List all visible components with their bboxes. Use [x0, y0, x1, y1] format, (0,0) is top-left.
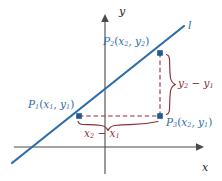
- x-axis-label: x: [202, 162, 208, 173]
- p1-comma: ,: [53, 98, 56, 110]
- p1-close-paren: ): [70, 98, 74, 110]
- point-marker-p2: [157, 50, 163, 56]
- run-lead-subscript: 2: [90, 132, 94, 140]
- point-marker-p3: [157, 113, 163, 119]
- point-marker-p1: [76, 113, 82, 119]
- point-label-p1: P1(x1, y1): [28, 99, 74, 111]
- line-l-label: l: [188, 20, 192, 31]
- run-trail-subscript: 1: [115, 132, 119, 140]
- point-markers: [76, 50, 163, 119]
- y-axis-arrowhead: [101, 14, 109, 22]
- p3-close-paren: ): [208, 116, 212, 128]
- dashed-construction-lines: [79, 53, 160, 116]
- point-label-p2: P2(x2, y2): [103, 36, 149, 48]
- p3-comma: ,: [191, 116, 194, 128]
- slope-diagram-figure: P2(x2, y2) P1(x1, y1) P3(x2, y1) y2 − y1…: [0, 0, 222, 181]
- point-label-p3: P3(x2, y1): [166, 117, 212, 129]
- rise-brace: [167, 55, 176, 115]
- rise-lead-subscript: 2: [184, 82, 188, 90]
- line-l: [12, 26, 184, 163]
- rise-trail-subscript: 1: [210, 82, 214, 90]
- rise-difference-label: y2 − y1: [178, 78, 214, 90]
- p2-close-paren: ): [145, 35, 149, 47]
- rise-minus-sign: −: [191, 77, 200, 89]
- p2-comma: ,: [128, 35, 131, 47]
- run-minus-sign: −: [97, 127, 106, 139]
- x-axis-arrowhead: [196, 143, 204, 151]
- y-axis-label: y: [119, 6, 125, 17]
- run-difference-label: x2 − x1: [84, 128, 120, 140]
